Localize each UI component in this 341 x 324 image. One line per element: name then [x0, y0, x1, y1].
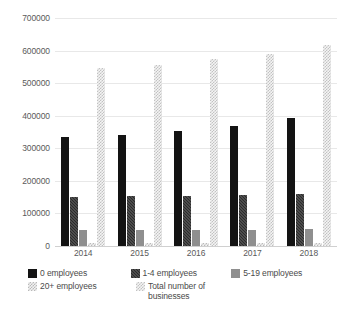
bar	[192, 230, 200, 246]
bar	[239, 195, 247, 246]
bar	[145, 243, 153, 246]
legend-label: 0 employees	[40, 268, 87, 278]
legend-row: 0 employees1-4 employees5-19 employees	[28, 268, 328, 278]
y-axis-tick-label: 100000	[22, 209, 50, 218]
x-axis-tick-label: 2015	[111, 248, 167, 258]
legend-item[interactable]: Total number of businesses	[136, 281, 234, 301]
bar	[183, 196, 191, 246]
legend-item[interactable]: 20+ employees	[28, 281, 128, 291]
y-axis-tick-label: 200000	[22, 176, 50, 185]
legend-item[interactable]: 0 employees	[28, 268, 123, 278]
y-axis-tick-label: 300000	[22, 144, 50, 153]
bar	[323, 45, 331, 246]
bar	[61, 137, 69, 246]
bar	[97, 68, 105, 246]
bar	[314, 243, 322, 246]
legend-swatch-icon	[231, 269, 240, 278]
bar	[201, 243, 209, 246]
y-axis-tick-label: 700000	[22, 14, 50, 23]
legend-label: 1-4 employees	[143, 268, 197, 278]
x-axis-tick-label: 2017	[224, 248, 280, 258]
bar	[266, 54, 274, 246]
bar-chart: 0100000200000300000400000500000600000700…	[0, 0, 341, 324]
legend-label: Total number of businesses	[148, 281, 205, 301]
bar	[305, 229, 313, 246]
bar	[230, 126, 238, 246]
legend-swatch-icon	[131, 269, 140, 278]
bar	[154, 65, 162, 246]
bar-group	[168, 18, 224, 246]
y-axis-tick-label: 500000	[22, 79, 50, 88]
bar	[287, 118, 295, 246]
bar	[127, 196, 135, 246]
bar-group	[111, 18, 167, 246]
x-axis-tick-label: 2018	[281, 248, 337, 258]
legend-swatch-icon	[28, 282, 37, 291]
y-axis-labels: 0100000200000300000400000500000600000700…	[0, 18, 50, 246]
gridline	[55, 246, 337, 247]
plot-area	[55, 18, 337, 246]
bar	[70, 197, 78, 246]
y-axis-tick-label: 0	[45, 242, 50, 251]
bar	[118, 135, 126, 246]
x-axis-tick-label: 2014	[55, 248, 111, 258]
legend-swatch-icon	[28, 269, 37, 278]
bar	[296, 194, 304, 246]
legend-row: 20+ employeesTotal number of businesses	[28, 281, 328, 301]
legend-label: 20+ employees	[40, 281, 97, 291]
bar	[248, 230, 256, 246]
legend-item[interactable]: 5-19 employees	[231, 268, 320, 278]
bar-group	[224, 18, 280, 246]
bar-group	[281, 18, 337, 246]
bar	[88, 243, 96, 246]
bar	[136, 230, 144, 246]
x-axis-labels: 20142015201620172018	[55, 248, 337, 258]
legend-swatch-icon	[136, 282, 145, 291]
bar-groups	[55, 18, 337, 246]
x-axis-tick-label: 2016	[168, 248, 224, 258]
bar	[257, 243, 265, 246]
legend-label: 5-19 employees	[243, 268, 302, 278]
bar	[79, 230, 87, 246]
bar-group	[55, 18, 111, 246]
bar	[210, 59, 218, 246]
bar	[174, 131, 182, 246]
legend-item[interactable]: 1-4 employees	[131, 268, 224, 278]
y-axis-tick-label: 600000	[22, 46, 50, 55]
legend: 0 employees1-4 employees5-19 employees20…	[28, 268, 328, 304]
y-axis-tick-label: 400000	[22, 111, 50, 120]
